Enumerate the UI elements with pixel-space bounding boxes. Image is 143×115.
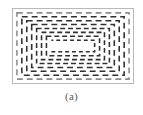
rectangular-spiral-diagram	[13, 9, 133, 83]
figure-panel	[12, 8, 134, 84]
figure-caption: (a)	[0, 90, 143, 103]
figure-container: (a)	[0, 0, 143, 115]
